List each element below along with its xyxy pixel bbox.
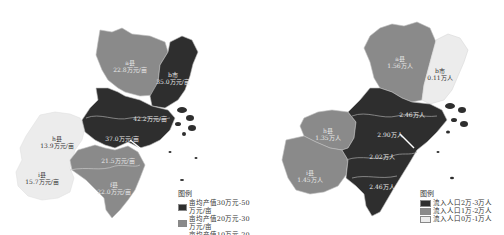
legend-item-dark: 亩均产值30万元-50万元/亩 bbox=[178, 199, 252, 215]
label-region-i: i县1.45万人 bbox=[297, 169, 322, 183]
legend-item-dark: 流入人口2万-3万人 bbox=[420, 199, 492, 207]
legend-title: 图例 bbox=[178, 190, 252, 198]
legend-swatch-mid bbox=[420, 208, 431, 215]
left-legend: 图例 亩均产值30万元-50万元/亩 亩均产值20万元-30万元/亩 亩均产值1… bbox=[178, 190, 252, 235]
label-region-e: 2.02万人 bbox=[369, 153, 394, 160]
label-region-d: 2.90万人 bbox=[377, 131, 402, 138]
label-region-d: 37.0万元/亩 bbox=[105, 135, 138, 142]
legend-swatch-light bbox=[420, 216, 431, 223]
label-region-c: 2.46万人 bbox=[399, 111, 424, 118]
label-region-e: 21.5万元/亩 bbox=[101, 157, 134, 164]
right-legend: 图例 流入人口2万-3万人 流入人口1万-2万人 流入人口0万-1万人 bbox=[420, 190, 492, 223]
label-region-b: b市0.11万人 bbox=[427, 67, 452, 81]
right-map: a县1.56万人 b市0.11万人 2.46万人 2.90万人 2.02万人 2… bbox=[252, 0, 504, 235]
label-region-f: f县22.0万元/亩 bbox=[97, 181, 130, 195]
label-region-c: 42.2万元/亩 bbox=[133, 115, 166, 122]
label-region-h: h县13.9万元/亩 bbox=[40, 135, 73, 149]
label-region-a: a县1.56万人 bbox=[387, 55, 412, 69]
label-region-f: 2.46万人 bbox=[369, 183, 394, 190]
left-map: a县22.8万元/亩 b市35.0万元/亩 42.2万元/亩 37.0万元/亩 … bbox=[0, 0, 252, 235]
legend-item-light: 亩均产值10万元-20万元/亩 bbox=[178, 231, 252, 235]
legend-item-light: 流入人口0万-1万人 bbox=[420, 215, 492, 223]
label-region-i: i县15.7万元/亩 bbox=[25, 171, 58, 185]
label-region-b: b市35.0万元/亩 bbox=[156, 71, 189, 85]
legend-item-mid: 亩均产值20万元-30万元/亩 bbox=[178, 215, 252, 231]
legend-swatch-dark bbox=[178, 204, 187, 211]
label-region-a: a县22.8万元/亩 bbox=[113, 59, 146, 73]
legend-item-mid: 流入人口1万-2万人 bbox=[420, 207, 492, 215]
label-region-h: h县1.35万人 bbox=[315, 127, 340, 141]
legend-swatch-dark bbox=[420, 200, 431, 207]
legend-swatch-mid bbox=[178, 220, 187, 227]
legend-title: 图例 bbox=[420, 190, 492, 198]
